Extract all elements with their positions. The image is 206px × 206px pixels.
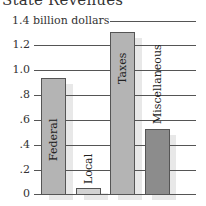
y-tick-label: .2 (20, 163, 31, 176)
bar-miscellaneous (145, 129, 170, 195)
y-tick-label: 0 (23, 187, 30, 200)
y-tick-label: .6 (20, 113, 31, 126)
bar-label-taxes: Taxes (116, 53, 129, 84)
y-tick-label: 1.4 billion dollars (12, 14, 109, 27)
bar-local (76, 188, 101, 195)
bar-label-miscellaneous: Miscellaneous (151, 44, 164, 124)
y-tick-label: .4 (20, 138, 31, 151)
y-tick-label: .8 (20, 88, 31, 101)
y-tick-label: 1.2 (13, 38, 31, 51)
bar-label-federal: Federal (47, 119, 60, 161)
plot-area: 1.4 billion dollars 1.2 1.0 .8 .6 .4 .2 … (0, 0, 206, 206)
y-tick-label: 1.0 (13, 63, 31, 76)
bar-label-local: Local (82, 154, 95, 184)
